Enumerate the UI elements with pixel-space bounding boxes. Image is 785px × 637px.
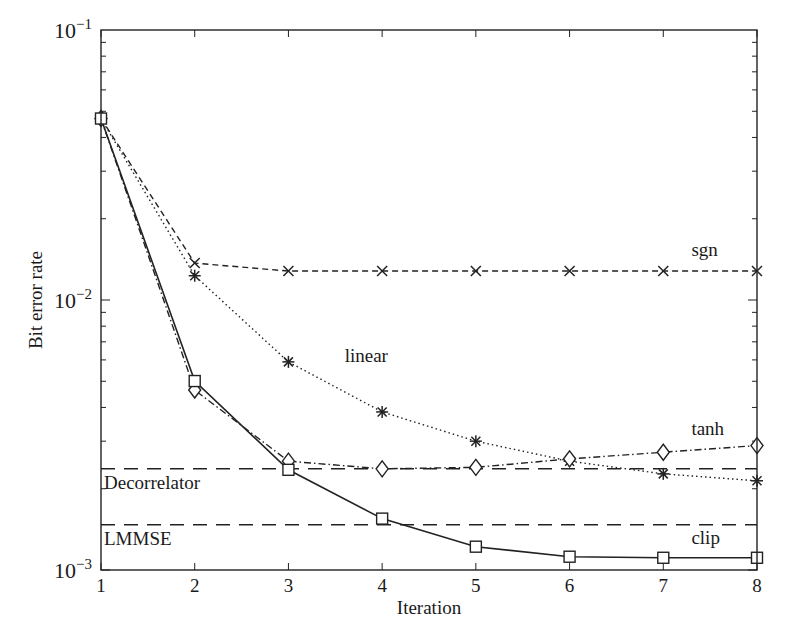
ber-vs-iteration-chart: 1234567810−110−210−3DecorrelatorLMMSEsgn… [0,0,785,637]
square-marker-icon [658,552,669,563]
square-marker-icon [189,376,200,387]
x-tick-label: 8 [752,575,762,596]
series-line-sgn [101,119,757,272]
square-marker-icon [470,541,481,552]
asterisk-marker-icon [282,356,294,368]
diamond-marker-icon [376,461,388,477]
square-marker-icon [564,551,575,562]
x-tick-label: 7 [659,575,669,596]
reference-label-lmmse: LMMSE [104,528,172,549]
series-line-linear [101,119,757,481]
asterisk-marker-icon [657,468,669,480]
square-marker-icon [377,513,388,524]
y-axis-label: Bit error rate [25,251,46,349]
series-label-linear: linear [345,345,389,366]
x-tick-label: 4 [377,575,387,596]
series-label-clip: clip [691,527,720,548]
y-tick-label: 10−3 [54,556,92,583]
x-tick-label: 3 [284,575,294,596]
x-tick-label: 6 [565,575,575,596]
labels: 1234567810−110−210−3DecorrelatorLMMSEsgn… [54,16,762,596]
square-marker-icon [283,464,294,475]
x-axis-label: Iteration [397,597,462,618]
series-line-tanh [101,119,757,469]
asterisk-marker-icon [189,270,201,282]
x-tick-label: 1 [96,575,106,596]
series-label-sgn: sgn [691,239,718,260]
y-tick-label: 10−1 [54,16,92,43]
x-tick-label: 5 [471,575,481,596]
data-markers [95,111,763,564]
y-tick-label: 10−2 [54,286,92,313]
diamond-marker-icon [470,459,482,475]
asterisk-marker-icon [470,435,482,447]
asterisk-marker-icon [376,406,388,418]
x-tick-label: 2 [190,575,200,596]
diamond-marker-icon [657,444,669,460]
series-label-tanh: tanh [691,418,724,439]
reference-label-decorrelator: Decorrelator [104,472,201,493]
